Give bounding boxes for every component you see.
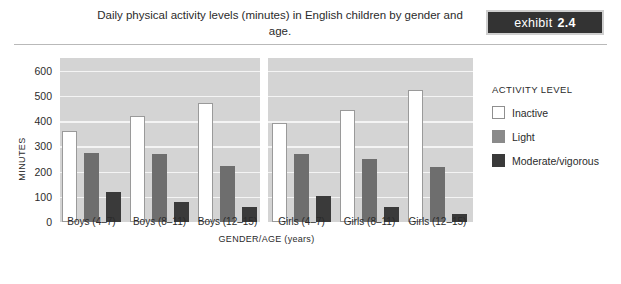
legend-title: ACTIVITY LEVEL: [492, 84, 618, 95]
bar-group: [408, 58, 467, 222]
legend-item-label: Light: [512, 131, 535, 143]
bar-group: [62, 58, 121, 222]
bar-light[interactable]: [362, 159, 377, 222]
legend-item[interactable]: Moderate/vigorous: [492, 154, 618, 167]
bars: [62, 58, 121, 222]
legend-item-label: Moderate/vigorous: [512, 155, 599, 167]
bars: [130, 58, 189, 222]
bar-light[interactable]: [294, 154, 309, 222]
bar-inactive[interactable]: [130, 116, 145, 222]
legend-swatch-icon: [492, 130, 505, 143]
bar-group: [198, 58, 257, 222]
page-title: Daily physical activity levels (minutes)…: [96, 8, 464, 39]
exhibit-badge: exhibit 2.4: [486, 10, 604, 35]
bar-inactive[interactable]: [340, 110, 355, 222]
bar-light[interactable]: [430, 167, 445, 222]
y-axis-tick-600: 600: [18, 66, 52, 76]
y-axis-tick-300: 300: [18, 141, 52, 151]
x-axis-group-label: Girls (12–15): [395, 216, 481, 227]
bar-light[interactable]: [84, 153, 99, 222]
y-axis-tick-400: 400: [18, 116, 52, 126]
bar-inactive[interactable]: [408, 90, 423, 222]
bar-inactive[interactable]: [198, 103, 213, 222]
bars: [340, 58, 399, 222]
y-axis-tick-100: 100: [18, 192, 52, 202]
bar-inactive[interactable]: [62, 131, 77, 222]
bars: [198, 58, 257, 222]
bars: [272, 58, 331, 222]
bars: [408, 58, 467, 222]
exhibit-header: Daily physical activity levels (minutes)…: [0, 0, 621, 46]
y-axis-tick-0: 0: [18, 217, 52, 227]
bar-light[interactable]: [220, 166, 235, 222]
exhibit-badge-word: exhibit: [514, 16, 552, 30]
y-axis-title: MINUTES: [17, 124, 27, 194]
chart-legend: ACTIVITY LEVEL InactiveLightModerate/vig…: [492, 84, 618, 178]
bar-group: [130, 58, 189, 222]
y-axis-tick-200: 200: [18, 167, 52, 177]
legend-item-label: Inactive: [512, 107, 548, 119]
header-divider: [14, 44, 607, 45]
y-axis-tick-500: 500: [18, 91, 52, 101]
legend-swatch-icon: [492, 154, 505, 167]
exhibit-badge-number: 2.4: [557, 16, 575, 30]
bar-group: [272, 58, 331, 222]
legend-item[interactable]: Inactive: [492, 106, 618, 119]
legend-items: InactiveLightModerate/vigorous: [492, 106, 618, 167]
bar-light[interactable]: [152, 154, 167, 222]
legend-swatch-icon: [492, 106, 505, 119]
bar-inactive[interactable]: [272, 123, 287, 222]
x-axis-title: GENDER/AGE (years): [60, 234, 473, 244]
legend-item[interactable]: Light: [492, 130, 618, 143]
bar-group: [340, 58, 399, 222]
